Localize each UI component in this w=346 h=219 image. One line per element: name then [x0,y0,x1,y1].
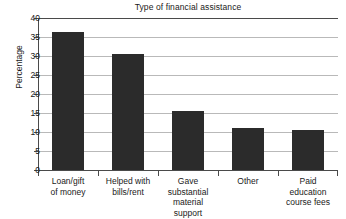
x-category-label-line: of money [38,187,98,198]
x-category-label-line: education [278,187,338,198]
x-category-label-line: Paid [278,176,338,187]
y-tick-label: 10 [0,128,40,137]
plot-area [38,18,338,170]
x-axis-line [38,170,338,171]
y-tick-label: 30 [0,52,40,61]
y-tick-label: 35 [0,33,40,42]
y-tick-label: 15 [0,109,40,118]
y-tick-label: 40 [0,14,40,23]
gridline [38,18,338,19]
x-category-label-line: Other [218,176,278,187]
x-category-label: Gavesubstantialmaterialsupport [158,176,218,218]
y-tick-label: 0 [0,166,40,175]
bar [292,130,324,170]
x-category-label-line: Loan/gift [38,176,98,187]
x-category-label-line: Gave [158,176,218,187]
bar [112,54,144,170]
x-category-label-line: material [158,197,218,208]
y-tick-label: 20 [0,90,40,99]
y-tick-label: 5 [0,147,40,156]
x-category-label: Other [218,176,278,187]
bar [232,128,264,170]
bar-chart: Type of financial assistance Percentage … [0,0,346,218]
y-axis-label: Percentage [14,12,24,122]
x-category-label-line: bills/rent [98,187,158,198]
x-category-label: Loan/giftof money [38,176,98,197]
x-category-label: Helped withbills/rent [98,176,158,197]
x-category-label-line: substantial [158,187,218,198]
x-axis-category-labels: Loan/giftof moneyHelped withbills/rentGa… [38,176,338,218]
x-category-label-line: Helped with [98,176,158,187]
x-category-label-line: support [158,208,218,219]
bar [172,111,204,170]
x-category-label-line: course fees [278,197,338,208]
chart-title: Type of financial assistance [38,2,338,13]
y-tick-label: 25 [0,71,40,80]
x-category-label: Paideducationcourse fees [278,176,338,208]
bar [52,32,84,170]
